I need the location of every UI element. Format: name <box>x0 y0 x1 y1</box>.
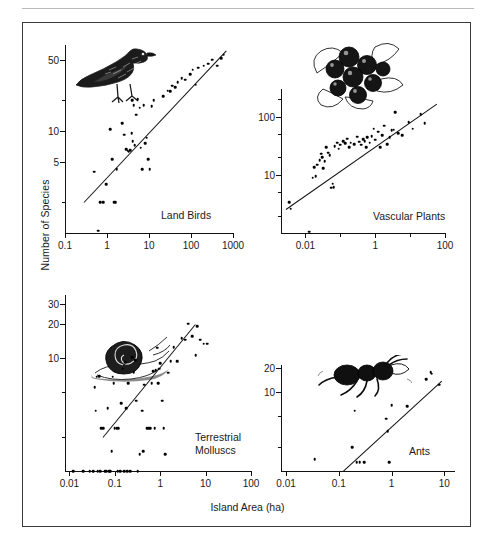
plot-area-ants: 0.010.11101020 <box>281 361 459 471</box>
x-tick <box>191 233 192 238</box>
data-point <box>332 186 335 189</box>
regression-line <box>343 381 443 472</box>
data-point <box>173 346 176 349</box>
data-point <box>140 146 143 149</box>
data-point <box>121 368 124 371</box>
data-point <box>401 134 404 137</box>
data-point <box>98 375 101 378</box>
y-axis-line <box>281 365 282 471</box>
data-point <box>386 143 389 146</box>
y-tick-label: 10 <box>33 352 59 363</box>
data-point <box>169 90 172 93</box>
x-tick <box>206 471 207 476</box>
data-point <box>407 121 410 124</box>
data-point <box>374 139 377 142</box>
data-point <box>176 360 179 363</box>
data-point <box>82 470 85 473</box>
data-point <box>334 145 337 148</box>
data-point <box>365 146 368 149</box>
x-tick-label: 0.01 <box>276 478 295 489</box>
data-point <box>129 149 132 152</box>
x-tick-label: 1000 <box>222 240 244 251</box>
data-point <box>152 99 155 102</box>
data-point <box>167 371 170 374</box>
y-tick-label: 5 <box>33 156 59 167</box>
data-point <box>222 54 225 57</box>
panel-vascular-plants: 0.01110010100 Vascular Plants <box>281 85 449 233</box>
x-tick <box>392 471 393 476</box>
data-point <box>406 405 409 408</box>
data-point <box>316 163 319 166</box>
panel-title-ants: Ants <box>409 445 430 458</box>
data-point <box>344 142 347 145</box>
x-tick <box>69 471 70 476</box>
data-point <box>153 427 156 430</box>
panel-title-vascular-plants: Vascular Plants <box>373 210 445 223</box>
data-point <box>149 168 152 171</box>
x-tick-label: 1 <box>104 240 110 251</box>
data-point <box>159 362 162 365</box>
data-point <box>313 458 316 461</box>
x-tick <box>107 233 108 238</box>
data-point <box>115 168 118 171</box>
data-point <box>142 104 145 107</box>
data-point <box>111 158 114 161</box>
data-point <box>351 446 354 449</box>
data-point <box>125 407 128 410</box>
data-point <box>124 361 127 364</box>
y-tick <box>60 60 65 61</box>
x-tick <box>340 233 341 237</box>
data-point <box>99 470 102 473</box>
data-point <box>180 77 183 80</box>
y-tick-minor <box>62 100 65 101</box>
figure-frame: Number of Species Island Area (ha) <box>22 22 471 527</box>
panel-land-birds: 0.1110100100051050 Land Birds <box>65 41 237 233</box>
data-point <box>315 175 318 178</box>
data-point <box>111 376 114 379</box>
data-point <box>141 410 144 413</box>
data-point <box>438 383 441 386</box>
x-axis-line <box>281 471 455 472</box>
x-tick <box>445 233 446 238</box>
data-point <box>135 399 138 402</box>
data-point <box>394 111 397 114</box>
data-point <box>336 141 339 144</box>
data-point <box>324 160 327 163</box>
data-point <box>325 146 328 149</box>
x-tick-label: 1 <box>157 478 163 489</box>
data-point <box>131 99 134 102</box>
y-tick <box>60 324 65 325</box>
y-tick-label: 30 <box>33 298 59 309</box>
data-point <box>161 399 164 402</box>
x-tick-label: 10 <box>143 240 154 251</box>
data-point <box>196 325 199 328</box>
x-tick <box>251 471 252 476</box>
data-point <box>138 106 141 109</box>
data-point <box>132 104 135 107</box>
data-point <box>106 407 109 410</box>
y-tick-minor <box>62 437 65 438</box>
y-tick <box>276 368 281 369</box>
data-point <box>88 470 91 473</box>
y-tick-label: 10 <box>249 169 275 180</box>
y-tick <box>60 304 65 305</box>
data-point <box>320 153 323 156</box>
data-point <box>134 359 137 362</box>
data-point <box>134 144 137 147</box>
data-point <box>105 183 108 186</box>
data-point <box>164 453 167 456</box>
figure-stage: Number of Species Island Area (ha) <box>0 0 495 559</box>
data-point <box>392 128 395 131</box>
data-point <box>138 453 141 456</box>
x-tick-label: 0.1 <box>332 478 346 489</box>
x-tick-label: 0.01 <box>296 240 315 251</box>
data-point <box>94 410 97 413</box>
data-point <box>397 132 400 135</box>
data-point <box>308 230 311 233</box>
data-point <box>191 335 194 338</box>
data-point <box>191 68 194 71</box>
regression-line <box>83 51 227 204</box>
data-point <box>147 158 150 161</box>
data-point <box>194 354 197 357</box>
y-tick-label: 50 <box>33 54 59 65</box>
